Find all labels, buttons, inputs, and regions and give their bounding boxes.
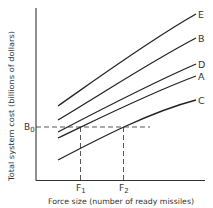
- curve-c: [58, 100, 196, 160]
- curve-d: [58, 64, 196, 132]
- curve-label-e: E: [198, 9, 204, 20]
- x-axis-title: Force size (number of ready missiles): [48, 197, 194, 206]
- curve-e: [58, 14, 196, 106]
- curve-b: [58, 38, 196, 120]
- curve-label-d: D: [198, 59, 205, 70]
- curve-label-a: A: [198, 71, 205, 82]
- f2-label: F2: [119, 183, 129, 195]
- cost-vs-force-chart: E B D A C B0 F1 F2 Force size (number of…: [0, 0, 213, 208]
- f1-label: F1: [76, 183, 86, 195]
- y-axis-title: Total system cost (billions of dollars): [7, 31, 16, 182]
- b0-label: B0: [24, 122, 35, 134]
- curve-label-b: B: [198, 33, 205, 44]
- curve-label-c: C: [198, 95, 205, 106]
